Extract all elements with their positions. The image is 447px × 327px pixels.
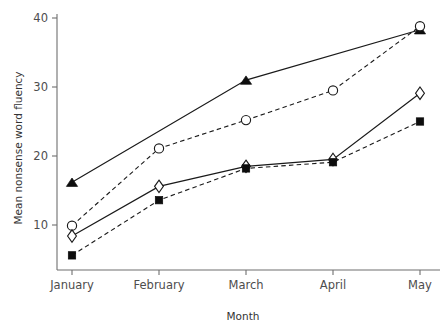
chart-container: 10203040 JanuaryFebruaryMarchAprilMay Me… xyxy=(0,0,447,327)
y-tick-label: 30 xyxy=(33,80,48,94)
data-point-circle-open xyxy=(328,86,337,95)
y-tick-label: 10 xyxy=(33,218,48,232)
data-point-square-filled xyxy=(242,165,249,172)
data-point-square-filled xyxy=(155,196,162,203)
y-tick-label: 40 xyxy=(33,11,48,25)
line-chart: 10203040 JanuaryFebruaryMarchAprilMay Me… xyxy=(0,0,447,327)
data-point-circle-open xyxy=(154,144,163,153)
y-axis-title: Mean nonsense word fluency xyxy=(12,71,24,224)
y-tick-label: 20 xyxy=(33,149,48,163)
x-tick-label: April xyxy=(320,278,346,292)
x-tick-label: February xyxy=(134,278,185,292)
x-tick-label: March xyxy=(228,278,263,292)
x-tick-label: January xyxy=(49,278,94,292)
x-axis-title: Month xyxy=(227,310,260,322)
data-point-circle-open xyxy=(415,22,424,31)
x-tick-label: May xyxy=(408,278,432,292)
data-point-square-filled xyxy=(416,118,423,125)
data-point-square-filled xyxy=(68,252,75,259)
data-point-circle-open xyxy=(241,116,250,125)
data-point-square-filled xyxy=(329,159,336,166)
